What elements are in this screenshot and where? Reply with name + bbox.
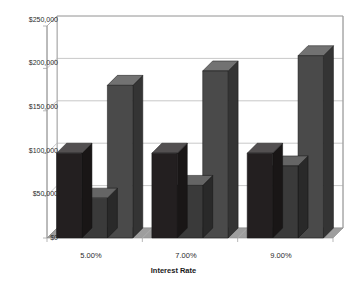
bar-side-face: [298, 156, 308, 238]
chart-canvas: [0, 0, 347, 289]
y-axis-tick-label: $50,000: [6, 190, 58, 198]
x-axis-tick-label: 9.00%: [246, 251, 316, 260]
bar-side-face: [133, 75, 143, 238]
bar: [57, 143, 92, 238]
bar: [247, 143, 282, 238]
bar-front-face: [247, 153, 272, 238]
bar-side-face: [273, 143, 283, 238]
plot-left-wall: [47, 16, 57, 238]
bar-side-face: [177, 143, 187, 238]
bar-side-face: [82, 143, 92, 238]
y-axis-tick-label: $0: [6, 234, 58, 242]
y-axis-tick-label: $250,000: [6, 16, 58, 24]
plot-area: [0, 0, 347, 289]
x-axis-tick-label: 5.00%: [56, 251, 126, 260]
x-axis-tick-label: 7.00%: [151, 251, 221, 260]
bar-front-face: [57, 153, 82, 238]
y-axis-tick-label: $200,000: [6, 59, 58, 67]
y-axis-tick-label: $150,000: [6, 103, 58, 111]
bar-front-face: [152, 153, 177, 238]
bar-side-face: [228, 61, 238, 238]
chart-container: $0 $50,000 $100,000 $150,000 $200,000 $2…: [0, 0, 347, 289]
x-axis-title: Interest Rate: [0, 266, 347, 275]
bar-side-face: [323, 46, 333, 238]
bar-side-face: [203, 175, 213, 238]
bar: [152, 143, 187, 238]
y-axis-tick-label: $100,000: [6, 147, 58, 155]
